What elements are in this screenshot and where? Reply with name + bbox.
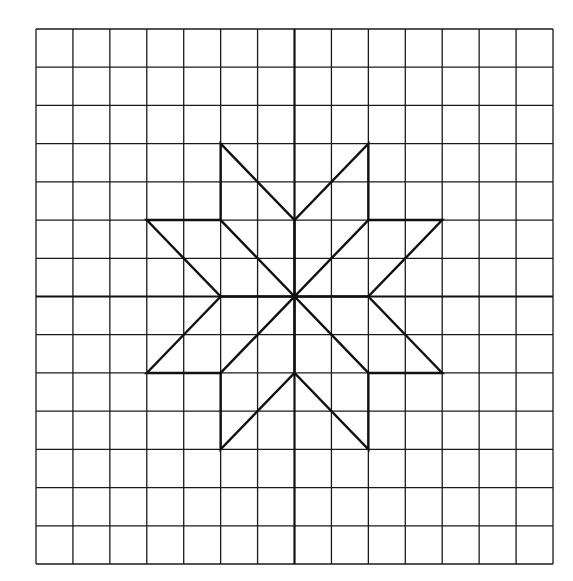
star-grid-diagram (0, 0, 573, 581)
